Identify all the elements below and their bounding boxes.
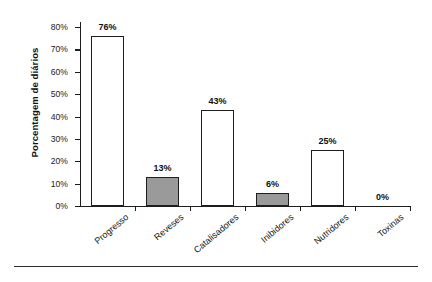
y-tick-label: 40%: [51, 112, 68, 122]
category-label: Progresso: [92, 212, 130, 246]
category-label: Reveses: [152, 212, 185, 242]
y-tick-50: 50%: [75, 94, 80, 95]
x-tick: [355, 206, 356, 211]
bar-value-label: 76%: [98, 22, 116, 32]
bar: [91, 36, 124, 206]
bar-value-label: 0%: [376, 192, 389, 202]
bar-chart-figure: Porcentagem de diários 0%10%20%30%40%50%…: [0, 0, 432, 282]
y-tick-label: 60%: [51, 67, 68, 77]
bar: [201, 110, 234, 206]
category-label: Nutridores: [312, 212, 350, 246]
y-tick-20: 20%: [75, 161, 80, 162]
y-tick-label: 70%: [51, 44, 68, 54]
y-tick-30: 30%: [75, 139, 80, 140]
bar: [256, 193, 289, 206]
y-tick-label: 20%: [51, 156, 68, 166]
y-axis-title: Porcentagem de diários: [29, 23, 40, 183]
bar: [146, 177, 179, 206]
y-tick-label: 50%: [51, 89, 68, 99]
bottom-horizontal-rule: [14, 266, 418, 267]
y-tick-80: 80%: [75, 27, 80, 28]
x-tick: [135, 206, 136, 211]
bar: [311, 150, 344, 206]
category-label: Inibidores: [259, 212, 295, 245]
y-tick-label: 10%: [51, 179, 68, 189]
x-tick: [190, 206, 191, 211]
x-tick: [410, 206, 411, 211]
y-tick-0: 0%: [75, 206, 80, 207]
y-tick-40: 40%: [75, 117, 80, 118]
bar-value-label: 6%: [266, 179, 279, 189]
x-tick: [245, 206, 246, 211]
y-axis-line: [80, 22, 81, 207]
y-tick-label: 30%: [51, 134, 68, 144]
category-label: Catalisadores: [191, 212, 240, 255]
category-label: Toxinas: [375, 212, 405, 239]
bar-value-label: 43%: [208, 96, 226, 106]
y-tick-60: 60%: [75, 72, 80, 73]
y-tick-label: 0%: [56, 201, 68, 211]
bar-value-label: 25%: [318, 136, 336, 146]
plot-area: 0%10%20%30%40%50%60%70%80% 76%13%43%6%25…: [80, 22, 410, 207]
x-tick: [300, 206, 301, 211]
y-tick-70: 70%: [75, 49, 80, 50]
bar-value-label: 13%: [153, 163, 171, 173]
y-tick-10: 10%: [75, 184, 80, 185]
y-tick-label: 80%: [51, 22, 68, 32]
